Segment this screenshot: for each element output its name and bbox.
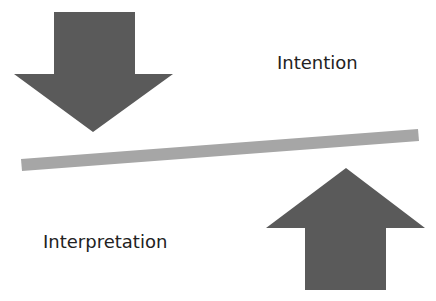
down-arrow-icon bbox=[14, 12, 173, 132]
up-arrow-icon bbox=[266, 168, 425, 290]
intention-label: Intention bbox=[277, 54, 358, 72]
interpretation-label: Interpretation bbox=[43, 233, 167, 251]
balance-bar bbox=[21, 129, 419, 171]
diagram-canvas bbox=[0, 0, 436, 301]
